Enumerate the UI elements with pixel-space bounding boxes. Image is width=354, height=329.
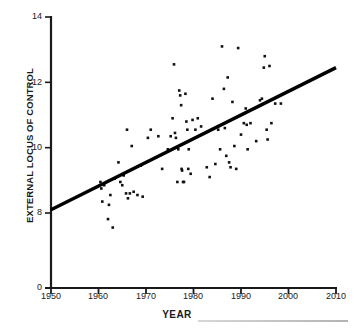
data-point (261, 97, 264, 100)
data-point (255, 140, 258, 143)
trend-line (51, 68, 336, 210)
data-point (180, 104, 183, 107)
data-point (130, 145, 133, 148)
x-tick-label-1950: 1950 (31, 291, 71, 301)
data-point (136, 194, 139, 197)
data-point (186, 128, 189, 131)
data-point (171, 117, 174, 120)
data-point (245, 124, 248, 127)
data-point (187, 148, 190, 151)
data-point (194, 128, 197, 131)
data-point (219, 148, 222, 151)
data-point (249, 122, 252, 125)
data-point (161, 168, 164, 171)
data-point (224, 127, 227, 130)
data-points-layer (99, 45, 282, 229)
x-axis-title: YEAR (0, 309, 354, 320)
data-point (237, 47, 240, 50)
data-point (266, 138, 269, 141)
data-point (109, 194, 112, 197)
data-point (129, 192, 132, 195)
data-point (181, 169, 184, 172)
data-point (179, 94, 182, 97)
x-tick-label-1980: 1980 (173, 291, 213, 301)
y-tick-label-10: 10 (20, 142, 42, 152)
data-point (274, 102, 277, 105)
plot-canvas (0, 0, 354, 329)
data-point (243, 122, 246, 125)
data-point (270, 122, 273, 125)
data-point (149, 128, 152, 131)
x-tick-label-1990: 1990 (221, 291, 261, 301)
x-tick-label-2000: 2000 (268, 291, 308, 301)
data-point (200, 125, 203, 128)
data-point (233, 145, 236, 148)
data-point (280, 102, 283, 105)
data-point (184, 92, 187, 95)
data-point (229, 166, 232, 169)
data-point (191, 119, 194, 122)
data-point (185, 120, 188, 123)
data-point (246, 148, 249, 151)
data-point (132, 190, 135, 193)
data-point (263, 55, 266, 58)
data-point (265, 128, 268, 131)
axis-lines (50, 16, 337, 289)
y-tick-label-12: 12 (20, 77, 42, 87)
data-point (196, 117, 199, 120)
data-point (111, 226, 114, 229)
data-point (217, 128, 220, 131)
data-point (240, 133, 243, 136)
page-edge-artifact (198, 320, 348, 322)
data-point (228, 161, 231, 164)
scatter-plot-figure: EXTERNAL LOCUS OF CONTROL YEAR 14 12 10 … (0, 0, 354, 329)
data-point (178, 89, 181, 92)
data-point (211, 97, 214, 100)
data-point (221, 45, 224, 48)
data-point (235, 168, 238, 171)
data-point (107, 218, 110, 221)
data-point (225, 155, 228, 158)
data-point (263, 66, 266, 69)
data-point (231, 101, 234, 104)
data-point (173, 63, 176, 66)
data-point (117, 161, 120, 164)
data-point (108, 204, 111, 207)
data-point (183, 181, 186, 184)
data-point (125, 192, 128, 195)
data-point (119, 181, 122, 184)
data-point (189, 173, 192, 176)
data-point (208, 176, 211, 179)
data-point (169, 135, 172, 138)
data-point (141, 195, 144, 198)
data-point (100, 187, 103, 190)
data-point (126, 128, 129, 131)
data-point (175, 137, 178, 140)
data-point (174, 132, 177, 135)
data-point (223, 88, 226, 91)
data-point (206, 166, 209, 169)
data-point (101, 200, 104, 203)
data-point (268, 65, 271, 68)
data-point (127, 197, 130, 200)
data-point (176, 181, 179, 184)
data-point (187, 168, 190, 171)
data-point (121, 184, 124, 187)
data-point (226, 76, 229, 79)
y-tick-label-14: 14 (20, 11, 42, 21)
data-point (147, 137, 150, 140)
x-tick-label-1960: 1960 (78, 291, 118, 301)
x-tick-label-1970: 1970 (126, 291, 166, 301)
data-point (244, 107, 247, 110)
data-point (214, 163, 217, 166)
data-point (157, 135, 160, 138)
y-tick-label-8: 8 (20, 207, 42, 217)
x-tick-label-2010: 2010 (316, 291, 354, 301)
